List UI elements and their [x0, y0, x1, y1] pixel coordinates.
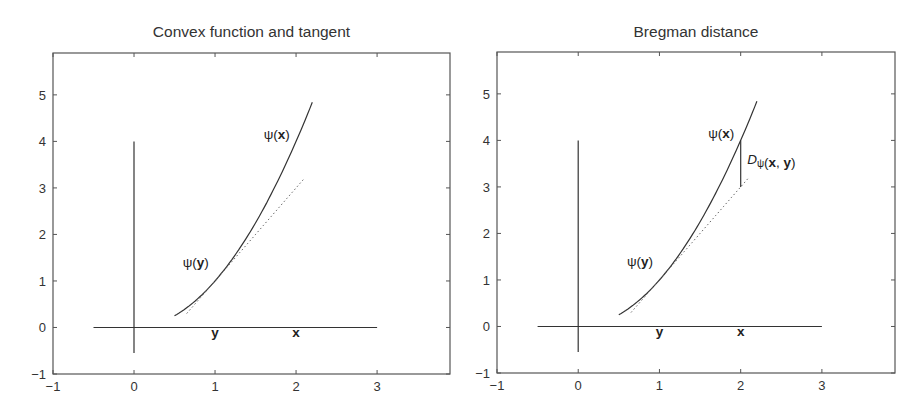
annotation-label: ψ(x) [264, 127, 290, 142]
y-tick-label: 3 [39, 181, 46, 196]
x-tick-label: −1 [46, 379, 61, 394]
y-tick-label: 4 [483, 133, 490, 148]
convex-function-chart: Convex function and tangent−10123−101234… [0, 0, 460, 410]
chart-title: Bregman distance [634, 23, 759, 40]
y-tick-label: 5 [483, 87, 490, 102]
annotation-label: ψ(x) [708, 126, 734, 141]
annotation-label: x [292, 325, 300, 340]
y-tick-label: 3 [483, 180, 490, 195]
annotation-label: Dψ(x, y) [747, 152, 795, 170]
annotation-label: y [211, 325, 219, 340]
y-tick-label: 0 [39, 320, 46, 335]
x-tick-label: 2 [737, 378, 744, 393]
y-tick-label: 1 [483, 273, 490, 288]
plot-frame [53, 53, 450, 374]
y-tick-label: 0 [483, 319, 490, 334]
x-tick-label: 0 [130, 379, 137, 394]
x-tick-label: 1 [656, 378, 663, 393]
x-tick-label: 0 [575, 378, 582, 393]
annotation-label: x [737, 324, 745, 339]
y-tick-label: 2 [39, 227, 46, 242]
plot-frame [497, 52, 895, 373]
annotation-label: ψ(y) [183, 255, 209, 270]
y-tick-label: 2 [483, 226, 490, 241]
y-tick-label: 5 [39, 88, 46, 103]
function-curve [175, 102, 313, 315]
chart-title: Convex function and tangent [153, 23, 351, 40]
y-tick-label: −1 [475, 366, 490, 381]
bregman-distance-chart: Bregman distance−10123−1012345ψ(x)ψ(y)Dψ… [444, 0, 921, 410]
function-curve [619, 101, 757, 314]
annotation-label: y [656, 324, 664, 339]
right-chart-panel: Bregman distance−10123−1012345ψ(x)ψ(y)Dψ… [444, 0, 921, 410]
y-tick-label: 1 [39, 274, 46, 289]
x-tick-label: −1 [490, 378, 505, 393]
x-tick-label: 3 [818, 378, 825, 393]
x-tick-label: 3 [373, 379, 380, 394]
y-tick-label: 4 [39, 134, 46, 149]
annotation-label: ψ(y) [627, 254, 653, 269]
y-tick-label: −1 [31, 367, 46, 382]
left-chart-panel: Convex function and tangent−10123−101234… [0, 0, 460, 410]
x-tick-label: 1 [211, 379, 218, 394]
x-tick-label: 2 [292, 379, 299, 394]
